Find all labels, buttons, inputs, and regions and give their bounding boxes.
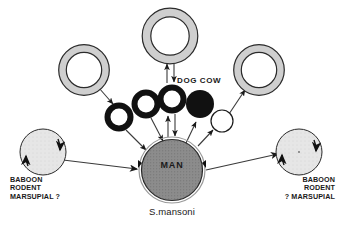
right-host-label-line-3: ? MARSUPIAL [255, 193, 335, 201]
edge-man-to-solid-black [186, 122, 196, 143]
snail-ring-top[interactable] [142, 8, 198, 64]
snail-ring-upper-right[interactable] [234, 45, 285, 96]
edge-man-to-host-right [206, 154, 278, 170]
edge-dark2-to-man [151, 118, 163, 141]
snail-ring-dark-3[interactable] [161, 88, 184, 111]
host-left-node[interactable] [20, 129, 66, 175]
figure-caption: S.mansoni [118, 206, 226, 217]
snail-solid-black[interactable] [186, 90, 214, 118]
left-host-label: BABOON RODENT MARSUPIAL ? [10, 176, 60, 201]
edge-dark1-to-man [126, 130, 146, 150]
host-right-node[interactable] [276, 129, 322, 175]
snail-ring-dark-1[interactable] [108, 106, 131, 129]
edge-dark3-to-man [168, 114, 175, 137]
left-host-label-line-3: MARSUPIAL ? [10, 193, 60, 201]
snail-ring-upper-left[interactable] [59, 45, 110, 96]
center-node-label: MAN [148, 160, 196, 171]
edge-man-to-white [198, 130, 213, 146]
edge-host-left-to-man [63, 160, 137, 169]
snail-white[interactable] [211, 110, 233, 132]
edge-white-to-upper-right-ring [229, 90, 245, 114]
edge-upper-left-ring-to-dark1 [99, 88, 113, 104]
snail-ring-dark-2[interactable] [135, 93, 158, 116]
edge-top-ring-to-dark3 [167, 62, 174, 83]
right-host-label: BABOON RODENT ? MARSUPIAL [255, 176, 335, 201]
figure-canvas: MAN DOG COW S.mansoni BABOON RODENT MARS… [0, 0, 343, 231]
dog-cow-label: DOG COW [177, 76, 221, 85]
